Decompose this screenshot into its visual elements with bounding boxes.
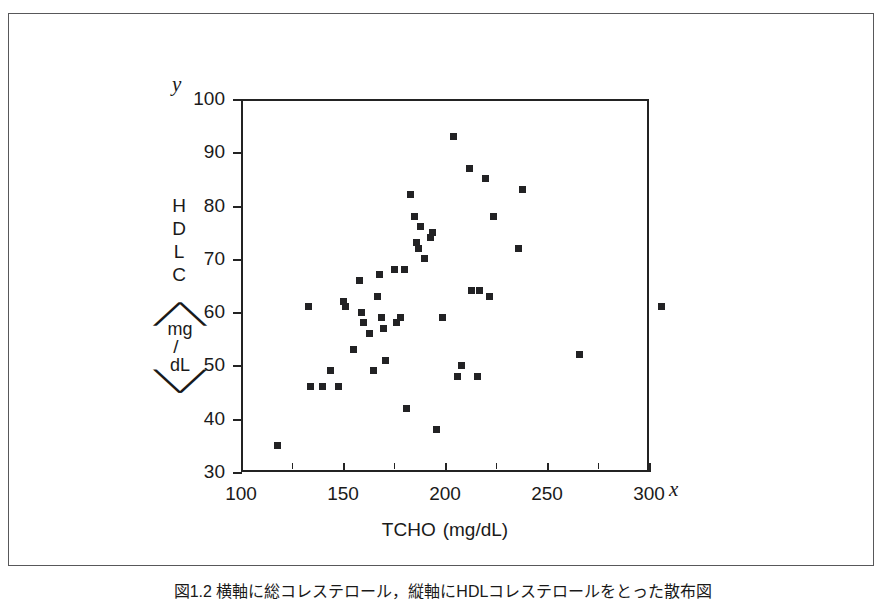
data-point — [327, 367, 334, 374]
data-point — [519, 186, 526, 193]
data-point — [305, 303, 312, 310]
y-axis-tick-label: 50 — [179, 355, 225, 374]
y-axis-tick — [233, 312, 242, 314]
x-axis-tick — [445, 463, 447, 472]
x-axis-tick-label: 200 — [415, 484, 475, 503]
data-point — [439, 314, 446, 321]
y-axis-tick-label-text: 80 — [179, 196, 225, 215]
y-axis-tick-label: 70 — [179, 249, 225, 268]
data-point — [360, 319, 367, 326]
y-axis-tick-label-text: 90 — [179, 142, 225, 161]
data-point — [474, 373, 481, 380]
y-axis-title-char: D — [164, 217, 194, 240]
y-axis-tick-label: 40 — [179, 409, 225, 428]
data-point — [576, 351, 583, 358]
data-point — [307, 383, 314, 390]
data-point — [515, 245, 522, 252]
x-axis-tick-label: 150 — [313, 484, 373, 503]
data-point — [433, 426, 440, 433]
x-axis-minor-tick — [292, 463, 293, 469]
x-axis-minor-tick — [394, 463, 395, 469]
x-axis-tick — [343, 463, 345, 472]
data-point — [358, 309, 365, 316]
x-axis-minor-tick — [598, 463, 599, 469]
data-point — [378, 314, 385, 321]
x-axis-tick-label: 100 — [211, 484, 271, 503]
data-point — [482, 175, 489, 182]
y-axis-tick-label: 30 — [179, 462, 225, 481]
data-point — [350, 346, 357, 353]
y-axis-tick — [233, 259, 242, 261]
data-point — [366, 330, 373, 337]
x-axis-tick — [241, 463, 243, 472]
data-point — [401, 266, 408, 273]
data-point — [274, 442, 281, 449]
x-axis-tick — [547, 463, 549, 472]
data-point — [370, 367, 377, 374]
x-axis-title: TCHO(mg/dL) — [241, 519, 649, 541]
data-point — [319, 383, 326, 390]
y-axis-unit-slash: / — [153, 339, 199, 355]
data-point — [382, 357, 389, 364]
x-axis-title-unit: (mg/dL) — [443, 519, 508, 540]
data-point — [486, 293, 493, 300]
data-point — [397, 314, 404, 321]
y-axis-tick-label-text: 70 — [179, 249, 225, 268]
y-axis-tick — [233, 206, 242, 208]
figure-caption: 図1.2 横軸に総コレステロール，縦軸にHDLコレステロールをとった散布図 — [0, 578, 886, 602]
data-point — [391, 266, 398, 273]
data-point — [407, 191, 414, 198]
y-axis-tick-label-text: 40 — [179, 409, 225, 428]
data-point — [415, 245, 422, 252]
y-axis-tick-label-text: 60 — [179, 302, 225, 321]
data-point — [403, 405, 410, 412]
y-axis-tick-label: 60 — [179, 302, 225, 321]
x-axis-tick — [649, 463, 651, 472]
y-axis-tick — [233, 99, 242, 101]
scatter-plot: y x H D L C ╱╲ mg / dL ╲╱ TCHO(mg/dL) 10… — [9, 14, 875, 567]
x-axis-tick-label: 250 — [517, 484, 577, 503]
data-point — [417, 223, 424, 230]
data-point — [476, 287, 483, 294]
data-point — [490, 213, 497, 220]
y-axis-tick — [233, 419, 242, 421]
data-point — [658, 303, 665, 310]
plot-axis-box — [241, 99, 649, 472]
y-axis-tick-label: 90 — [179, 142, 225, 161]
data-point — [454, 373, 461, 380]
data-point — [450, 133, 457, 140]
y-axis-tick-label: 80 — [179, 196, 225, 215]
y-axis-tick-label: 100 — [179, 89, 225, 108]
data-point — [411, 213, 418, 220]
data-point — [335, 383, 342, 390]
data-point — [468, 287, 475, 294]
y-axis-tick — [233, 152, 242, 154]
figure-frame: y x H D L C ╱╲ mg / dL ╲╱ TCHO(mg/dL) 10… — [8, 13, 874, 566]
data-point — [374, 293, 381, 300]
data-point — [342, 303, 349, 310]
y-axis-tick-label-text: 30 — [179, 462, 225, 481]
paren-close-glyph: ╲╱ — [132, 375, 229, 387]
data-point — [429, 229, 436, 236]
data-point — [380, 325, 387, 332]
x-axis-title-main: TCHO — [382, 519, 436, 540]
y-axis-tick — [233, 365, 242, 367]
x-axis-minor-tick — [496, 463, 497, 469]
y-axis-tick — [233, 472, 242, 474]
y-axis-tick-label-text: 100 — [179, 89, 225, 108]
data-point — [356, 277, 363, 284]
data-point — [458, 362, 465, 369]
data-point — [421, 255, 428, 262]
x-axis-tick-label: 300 — [619, 484, 679, 503]
data-point — [466, 165, 473, 172]
y-axis-tick-label-text: 50 — [179, 355, 225, 374]
data-point — [376, 271, 383, 278]
